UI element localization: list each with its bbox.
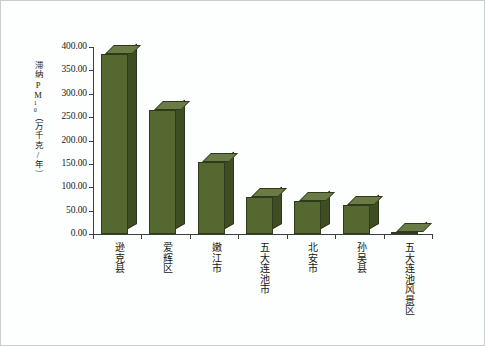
bar-front-face [101,54,128,234]
y-axis-tick [89,211,94,212]
bar [101,45,128,234]
x-axis-label: 五大连池市 [256,242,270,295]
x-axis-label: 孙吴县 [352,242,366,274]
bar-front-face [198,162,225,234]
y-axis-title-unit: （万千克/年） [33,113,43,179]
bar-front-face [294,201,321,234]
x-axis-line [93,234,432,235]
bar [246,188,273,234]
x-axis-tick [335,234,336,239]
x-axis-label: 逊克县 [110,242,124,274]
bar-side-face [128,44,137,229]
y-axis-tick [89,164,94,165]
x-axis-tick [287,234,288,239]
y-axis-tick-label: 100.00 [35,181,87,192]
y-axis-tick-label: 0.00 [35,228,87,239]
y-axis-tick-label: 400.00 [35,41,87,52]
x-axis-tick [141,234,142,239]
bar-side-face [176,100,185,229]
y-axis-tick-label-text: 250.00 [39,111,87,121]
chart-frame: 滞纳PM10（万千克/年） 400.00350.00300.00250.0020… [0,0,485,346]
bar-chart: 滞纳PM10（万千克/年） 400.00350.00300.00250.0020… [1,1,485,346]
bar [198,153,225,234]
bar-front-face [391,232,418,234]
x-axis-tick [93,234,94,239]
y-axis-tick-label-text: 300.00 [39,88,87,98]
y-axis-tick-label-text: 100.00 [39,181,87,191]
y-axis-tick [89,47,94,48]
bar [391,223,418,234]
y-axis-tick [89,117,94,118]
y-axis-tick-label: 250.00 [35,111,87,122]
y-axis-tick-label: 300.00 [35,88,87,99]
y-axis-tick [89,70,94,71]
bar-front-face [343,205,370,234]
y-axis-tick-label-text: 350.00 [39,64,87,74]
y-axis-tick-label-text: 200.00 [39,135,87,145]
y-axis-tick [89,94,94,95]
y-axis-tick [89,187,94,188]
x-axis-tick [432,234,433,239]
x-axis-tick [190,234,191,239]
bar-front-face [246,197,273,234]
y-axis-tick-label-text: 400.00 [39,41,87,51]
bar [149,101,176,234]
x-axis-tick [384,234,385,239]
y-axis-tick-label: 150.00 [35,158,87,169]
bar [294,192,321,234]
y-axis-tick-label: 50.00 [35,205,87,216]
y-axis-tick-label-text: 150.00 [39,158,87,168]
x-axis-label: 爱辉区 [159,242,173,274]
x-axis-label: 五大连池风景区 [401,242,415,316]
y-axis-tick-label: 350.00 [35,64,87,75]
y-axis-tick-label: 200.00 [35,135,87,146]
bar-top-face [396,223,432,232]
bar-front-face [149,110,176,234]
y-axis-tick-label-text: 50.00 [39,205,87,215]
bar [343,196,370,234]
bar-side-face [225,151,234,229]
y-axis-tick-label-text: 0.00 [39,228,87,238]
x-axis-tick [238,234,239,239]
y-axis-tick [89,141,94,142]
x-axis-label: 北安市 [304,242,318,274]
x-axis-label: 嫩江市 [207,242,221,274]
